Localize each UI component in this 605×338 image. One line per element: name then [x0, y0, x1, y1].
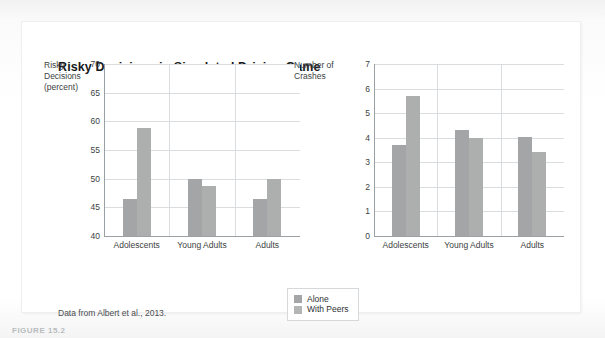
figure-card: Risky Decisions in Simulated Driving Gam…: [22, 22, 580, 312]
y-axis-tick-label: 60: [80, 117, 100, 126]
gridline-horizontal: [374, 89, 564, 90]
y-axis-label-line: Risky: [44, 60, 82, 71]
x-axis-tick-label: Adults: [501, 241, 564, 250]
bar-with-peers: [267, 179, 281, 236]
gridline-vertical: [235, 64, 236, 236]
bar-alone: [518, 137, 532, 237]
y-axis-tick-label: 5: [350, 109, 370, 118]
legend-item-alone: Alone: [294, 295, 349, 304]
y-axis-tick-label: 2: [350, 183, 370, 192]
bar-alone: [188, 179, 202, 236]
y-axis-tick-label: 45: [80, 203, 100, 212]
y-axis-label-line: (percent): [44, 82, 82, 93]
y-axis-tick-label: 55: [80, 146, 100, 155]
y-axis-tick-label: 4: [350, 134, 370, 143]
legend-swatch-with-peers-icon: [294, 306, 302, 314]
y-axis-tick-label: 3: [350, 158, 370, 167]
bar-with-peers: [406, 96, 420, 236]
x-axis-line: [374, 236, 564, 237]
legend-swatch-alone-icon: [294, 295, 302, 303]
bar-with-peers: [202, 186, 216, 236]
bar-alone: [253, 199, 267, 236]
source-note: Data from Albert et al., 2013.: [58, 308, 166, 318]
y-axis-tick-label: 1: [350, 207, 370, 216]
plot-area: [374, 64, 564, 236]
chart-legend: Alone With Peers: [287, 288, 359, 321]
bar-with-peers: [137, 128, 151, 236]
y-axis-tick-label: 7: [350, 60, 370, 69]
figure-caption: FIGURE 15.2: [12, 326, 66, 335]
legend-label-alone: Alone: [307, 295, 329, 304]
bar-with-peers: [532, 152, 546, 236]
gridline-horizontal: [374, 64, 564, 65]
x-axis-tick-label: Adults: [235, 241, 300, 250]
y-axis-tick-label: 40: [80, 232, 100, 241]
gridline-vertical: [501, 64, 502, 236]
y-axis-line: [374, 64, 375, 236]
y-axis-label: RiskyDecisions(percent): [44, 60, 82, 93]
gridline-vertical: [437, 64, 438, 236]
y-axis-tick-label: 50: [80, 175, 100, 184]
x-axis-line: [104, 236, 300, 237]
y-axis-label-line: Number of: [294, 60, 352, 71]
gridline-horizontal: [374, 113, 564, 114]
y-axis-label-line: Decisions: [44, 71, 82, 82]
legend-label-with-peers: With Peers: [307, 305, 349, 314]
y-axis-tick-label: 0: [350, 232, 370, 241]
y-axis-tick-label: 65: [80, 89, 100, 98]
gridline-horizontal: [104, 64, 300, 65]
y-axis-label: Number ofCrashes: [294, 60, 352, 82]
x-axis-tick-label: Adolescents: [374, 241, 437, 250]
plot-area: [104, 64, 300, 236]
bar-with-peers: [469, 138, 483, 236]
bar-alone: [392, 145, 406, 236]
gridline-horizontal: [104, 93, 300, 94]
x-axis-tick-label: Adolescents: [104, 241, 169, 250]
gridline-vertical: [169, 64, 170, 236]
gridline-horizontal: [104, 150, 300, 151]
y-axis-line: [104, 64, 105, 236]
bar-alone: [455, 130, 469, 236]
x-axis-tick-label: Young Adults: [437, 241, 500, 250]
legend-item-with-peers: With Peers: [294, 305, 349, 314]
gridline-horizontal: [104, 121, 300, 122]
x-axis-tick-label: Young Adults: [169, 241, 234, 250]
y-axis-tick-label: 70: [80, 60, 100, 69]
y-axis-tick-label: 6: [350, 85, 370, 94]
y-axis-label-line: Crashes: [294, 71, 352, 82]
figure-page: Risky Decisions in Simulated Driving Gam…: [0, 0, 605, 338]
bar-alone: [123, 199, 137, 236]
